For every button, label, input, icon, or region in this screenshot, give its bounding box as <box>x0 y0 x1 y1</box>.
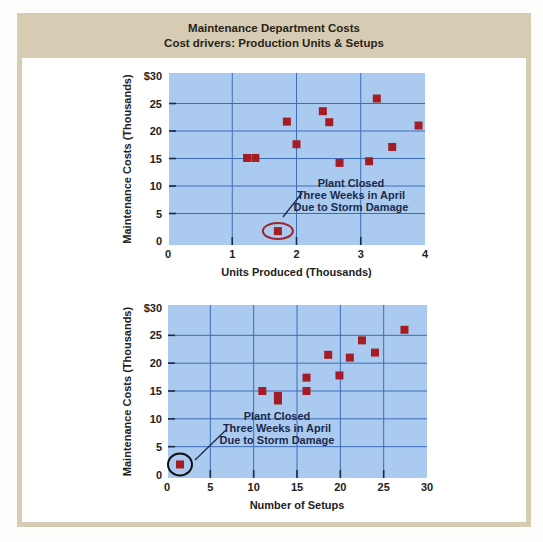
setups-chart-data-point <box>346 354 354 362</box>
units-chart-data-point <box>336 159 344 167</box>
setups-chart-y-tick-label: 25 <box>150 329 162 341</box>
units-chart-x-axis-title: Units Produced (Thousands) <box>221 266 372 278</box>
units-chart-data-point <box>293 140 301 148</box>
units-chart-x-tick-label: 1 <box>229 248 235 260</box>
units-chart-data-point <box>365 157 373 165</box>
setups-chart-x-tick-label: 30 <box>421 481 433 493</box>
setups-chart-annotation-text: Plant Closed <box>244 410 311 422</box>
setups-chart-data-point <box>358 336 366 344</box>
setups-chart-annotation-text: Three Weeks in April <box>223 422 331 434</box>
setups-chart-y-tick-label: 20 <box>150 357 162 369</box>
setups-chart-data-point <box>274 396 282 404</box>
setups-chart-y-tick-label: 10 <box>150 413 162 425</box>
units-chart-x-tick-label: 3 <box>358 248 364 260</box>
units-chart-data-point <box>415 122 423 130</box>
setups-chart-x-tick-label: 25 <box>378 481 390 493</box>
setups-chart-x-tick-label: 0 <box>164 481 170 493</box>
units-chart-annotation-text: Due to Storm Damage <box>294 201 409 213</box>
units-chart-y-tick-label: 5 <box>156 208 162 220</box>
setups-chart-annotation-text: Due to Storm Damage <box>220 434 335 446</box>
setups-chart-data-point <box>176 460 184 468</box>
setups-chart-x-axis-title: Number of Setups <box>250 499 345 511</box>
setups-chart-data-point <box>371 349 379 357</box>
setups-chart-y-tick-label: 15 <box>150 385 162 397</box>
setups-chart-y-tick-label: 5 <box>156 441 162 453</box>
setups-chart-x-tick-label: 15 <box>291 481 303 493</box>
units-chart-y-tick-label: $30 <box>144 70 162 82</box>
units-chart-data-point <box>388 143 396 151</box>
setups-chart-data-point <box>324 351 332 359</box>
setups-chart-y-axis-title: Maintenance Costs (Thousands) <box>121 307 133 477</box>
setups-chart-data-point <box>335 371 343 379</box>
setups-chart-data-point <box>303 387 311 395</box>
setups-chart-x-tick-label: 10 <box>248 481 260 493</box>
setups-chart-data-point <box>258 387 266 395</box>
units-chart-y-tick-label: 10 <box>150 180 162 192</box>
setups-chart-y-tick-label: 0 <box>156 469 162 481</box>
units-chart-data-point <box>251 154 259 162</box>
units-chart-annotation-text: Plant Closed <box>318 177 385 189</box>
units-chart-y-tick-label: 20 <box>150 125 162 137</box>
setups-chart-data-point <box>303 374 311 382</box>
units-chart-y-axis-title: Maintenance Costs (Thousands) <box>121 74 133 244</box>
units-chart-y-tick-label: 25 <box>150 98 162 110</box>
units-chart-x-tick-label: 0 <box>165 248 171 260</box>
units-chart-x-tick-label: 4 <box>422 248 429 260</box>
setups-chart-x-tick-label: 5 <box>207 481 213 493</box>
units-chart-data-point <box>319 107 327 115</box>
units-chart-y-tick-label: 0 <box>156 235 162 247</box>
units-chart-data-point <box>283 118 291 126</box>
setups-chart-x-tick-label: 20 <box>334 481 346 493</box>
units-chart-data-point <box>325 118 333 126</box>
units-chart-data-point <box>373 95 381 103</box>
units-chart-data-point <box>243 154 251 162</box>
units-chart-x-tick-label: 2 <box>293 248 299 260</box>
units-chart-annotation-text: Three Weeks in April <box>297 189 405 201</box>
units-chart-data-point <box>274 227 282 235</box>
setups-chart-y-tick-label: $30 <box>144 302 162 314</box>
setups-chart-data-point <box>400 326 408 334</box>
units-chart-y-tick-label: 15 <box>150 153 162 165</box>
charts-canvas: 0510152025$3001234Units Produced (Thousa… <box>0 0 543 542</box>
